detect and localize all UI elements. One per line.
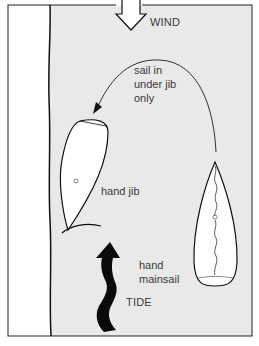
- diagram-canvas: WIND sail in under jib only hand jib han…: [0, 0, 259, 346]
- hand-mainsail-line-1: hand: [139, 259, 163, 272]
- instruction-line-3: only: [134, 92, 154, 105]
- hand-mainsail-line-2: mainsail: [139, 273, 179, 286]
- instruction-line-1: sail in: [134, 64, 162, 77]
- hand-jib-label: hand jib: [101, 185, 140, 198]
- wind-label: WIND: [150, 16, 180, 29]
- instruction-line-2: under jib: [134, 78, 176, 91]
- diagram-svg: [0, 0, 259, 346]
- tide-label: TIDE: [126, 296, 152, 309]
